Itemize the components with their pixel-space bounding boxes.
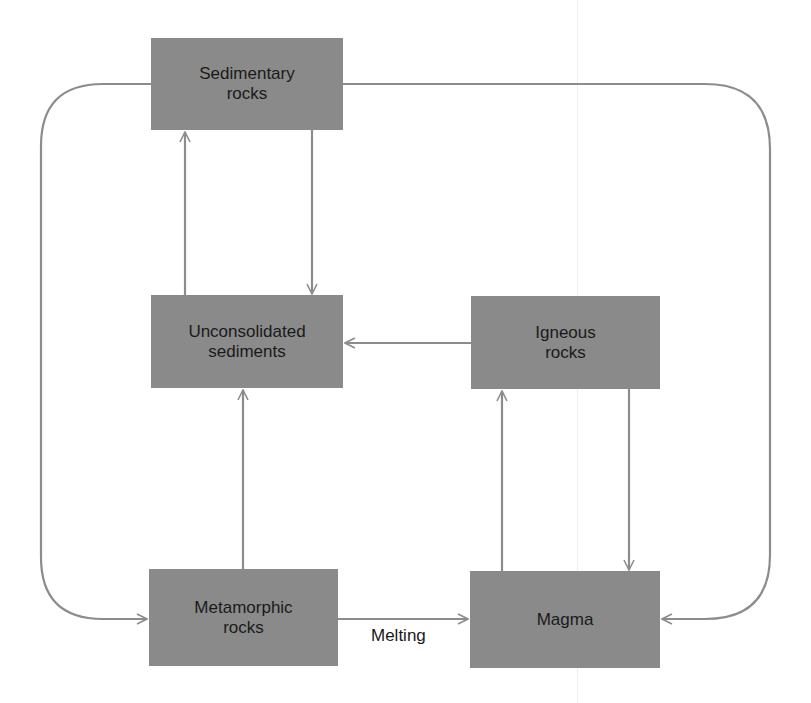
node-label: Metamorphic rocks	[194, 598, 292, 638]
node-metamorphic-rocks: Metamorphic rocks	[149, 569, 338, 666]
node-unconsolidated-sediments: Unconsolidated sediments	[151, 295, 343, 388]
node-label: Sedimentary rocks	[199, 64, 294, 104]
node-label: Unconsolidated sediments	[188, 322, 305, 362]
node-igneous-rocks: Igneous rocks	[471, 296, 660, 389]
node-magma: Magma	[470, 571, 660, 668]
node-label: Igneous rocks	[535, 323, 596, 363]
node-label: Magma	[537, 610, 594, 630]
node-sedimentary-rocks: Sedimentary rocks	[151, 38, 343, 130]
arrow-sedimentary-to-metamorphic	[41, 84, 151, 619]
edge-label-melting: Melting	[371, 626, 426, 646]
diagram-connectors	[0, 0, 811, 703]
